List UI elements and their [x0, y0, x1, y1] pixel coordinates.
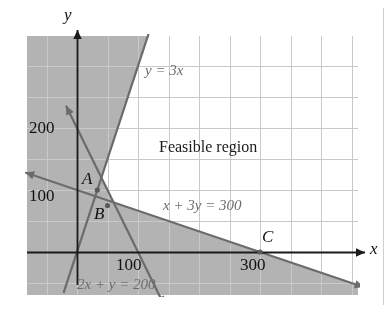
y-tick-200: 200: [29, 119, 55, 136]
vertex-label-B: B: [94, 205, 104, 222]
line-label-2x-y-200: 2x + y = 200: [77, 277, 156, 292]
x-tick-100: 100: [116, 256, 142, 273]
vertex-label-C: C: [262, 228, 273, 245]
line-label-y-3x: y = 3x: [145, 63, 183, 78]
feasible-region-label: Feasible region: [159, 139, 257, 155]
x-tick-300: 300: [240, 256, 266, 273]
page-edge-rule: [383, 8, 384, 305]
vertex-label-A: A: [82, 170, 92, 187]
line-label-x-3y-300: x + 3y = 300: [163, 198, 242, 213]
y-axis-label: y: [64, 6, 72, 23]
graph-canvas: [0, 0, 392, 313]
y-tick-100: 100: [29, 187, 55, 204]
x-axis-label: x: [370, 240, 378, 257]
feasible-region-figure: y x 200 100 100 300 A B C Feasible regio…: [0, 0, 392, 313]
